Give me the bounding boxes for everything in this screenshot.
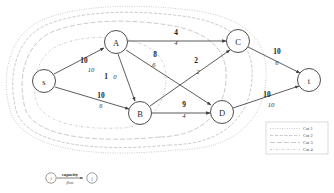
legend: Cut 1 Cut 2 Cut 3 Cut 4 (266, 122, 328, 154)
key-node-j-label: j (90, 176, 92, 181)
network-flow-diagram: 10 10 10 6 1 0 4 4 8 6 2 2 9 4 10 6 10 1… (0, 0, 334, 193)
legend-label-cut1: Cut 1 (303, 126, 313, 131)
edge-label-capacity-s-A: 10 (80, 56, 88, 65)
node-label-A: A (113, 38, 120, 48)
node-t[interactable]: t (298, 69, 321, 92)
node-A[interactable]: A (105, 31, 128, 54)
legend-label-cut4: Cut 4 (303, 147, 313, 152)
key-capacity-label: capacity (62, 172, 79, 177)
capacity-flow-key: i capacity flow j (46, 172, 97, 185)
edge-label-capacity-B-C: 2 (194, 56, 198, 65)
node-s[interactable]: s (33, 70, 56, 93)
legend-label-cut2: Cut 2 (303, 133, 313, 138)
node-B[interactable]: B (129, 102, 152, 125)
edge-label-capacity-A-B: 1 (104, 72, 108, 81)
edge-label-flow-s-B: 6 (99, 102, 103, 109)
edge-s-A (54, 48, 104, 74)
node-label-C: C (235, 37, 241, 47)
edge-label-capacity-A-C: 4 (174, 28, 178, 37)
node-D[interactable]: D (211, 101, 234, 124)
edge-A-D (126, 50, 211, 105)
node-label-D: D (219, 108, 225, 118)
node-label-B: B (137, 109, 143, 119)
edge-label-flow-D-t: 10 (268, 101, 275, 108)
edge-label-capacity-C-t: 10 (273, 47, 281, 56)
edge-label-flow-A-D: 6 (152, 61, 156, 68)
key-flow-label: flow (66, 180, 73, 185)
edge-A-B (118, 54, 135, 101)
edge-label-flow-A-B: 0 (113, 73, 117, 80)
edge-label-flow-A-C: 4 (174, 39, 178, 46)
edge-label-flow-s-A: 10 (88, 66, 95, 73)
edge-label-capacity-A-D: 8 (153, 50, 157, 59)
node-C[interactable]: C (227, 30, 250, 53)
legend-label-cut3: Cut 3 (303, 140, 313, 145)
node-label-s: s (42, 77, 45, 87)
edge-label-capacity-D-t: 10 (263, 90, 271, 99)
edge-B-C (150, 50, 230, 106)
edge-label-flow-B-D: 4 (182, 112, 186, 119)
edge-label-capacity-s-B: 10 (97, 91, 105, 100)
edge-s-B (55, 87, 129, 109)
edge-label-capacity-B-D: 9 (182, 100, 186, 109)
